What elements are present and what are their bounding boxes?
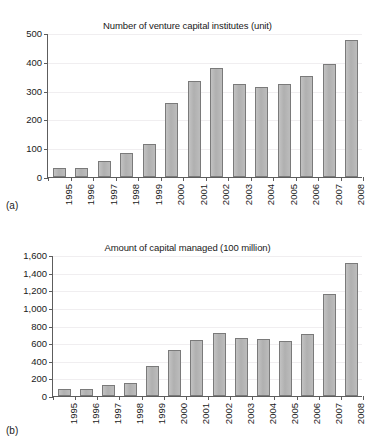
y-tick-label-b-3: 600 (31, 339, 47, 349)
x-tick-label-a-2000: 2000 (176, 184, 186, 205)
x-tick-label-a-2005: 2005 (289, 184, 299, 205)
y-tick-label-a-5: 500 (26, 29, 42, 39)
x-tick-label-a-1996: 1996 (86, 184, 96, 205)
x-tick-mark (208, 396, 209, 400)
bar-series-b (53, 256, 362, 396)
x-tick-label-a-1998: 1998 (131, 184, 141, 205)
x-tick-mark (228, 177, 229, 181)
x-tick-mark (164, 396, 165, 400)
x-tick-mark (252, 396, 253, 400)
x-tick-label-a-2004: 2004 (266, 184, 276, 205)
panel-label-b: (b) (6, 425, 18, 436)
x-axis-a: 1995199619971998199920002001200220032004… (48, 177, 362, 217)
x-tick-mark (273, 177, 274, 181)
bar-b-1995 (58, 389, 71, 396)
bar-series-a (48, 34, 362, 177)
bar-b-2001 (190, 340, 203, 396)
x-tick-label-b-1996: 1996 (91, 403, 101, 424)
x-tick-mark (161, 177, 162, 181)
x-tick-label-b-2007: 2007 (334, 403, 344, 424)
x-tick-label-b-2008: 2008 (356, 403, 366, 424)
bar-b-2008 (345, 263, 358, 396)
x-tick-label-b-2006: 2006 (312, 403, 322, 424)
bar-a-2001 (188, 81, 201, 177)
bar-a-2008 (345, 40, 358, 177)
chart-title-b: Amount of capital managed (100 million) (0, 242, 375, 253)
y-tick-label-b-1: 200 (31, 375, 47, 385)
x-tick-label-b-2005: 2005 (290, 403, 300, 424)
x-tick-mark (71, 177, 72, 181)
bar-a-2000 (165, 103, 178, 177)
x-tick-label-a-2008: 2008 (356, 184, 366, 205)
x-tick-label-b-2004: 2004 (268, 403, 278, 424)
bar-b-2002 (213, 333, 226, 396)
x-tick-label-b-2001: 2001 (201, 403, 211, 424)
x-tick-label-a-2007: 2007 (334, 184, 344, 205)
bar-a-2007 (323, 64, 336, 177)
x-tick-mark (297, 396, 298, 400)
bar-a-1996 (75, 168, 88, 177)
bar-b-2000 (168, 350, 181, 396)
x-tick-mark (296, 177, 297, 181)
plot-area-a: 0100200300400500 19951996199719981999200… (47, 34, 362, 178)
x-tick-mark (363, 177, 364, 181)
x-tick-label-b-1998: 1998 (135, 403, 145, 424)
bar-b-1998 (124, 383, 137, 396)
bar-a-1998 (120, 153, 133, 177)
y-tick-label-a-0: 0 (37, 173, 42, 183)
chart-title-a: Number of venture capital institutes (un… (0, 20, 375, 31)
bar-b-2003 (235, 338, 248, 396)
bar-a-1995 (53, 168, 66, 177)
bar-a-2003 (233, 84, 246, 177)
x-tick-label-a-1995: 1995 (64, 184, 74, 205)
x-tick-mark (319, 396, 320, 400)
bar-b-2006 (301, 334, 314, 396)
x-tick-label-b-1995: 1995 (69, 403, 79, 424)
x-tick-mark (116, 177, 117, 181)
x-tick-label-a-2003: 2003 (244, 184, 254, 205)
x-tick-mark (75, 396, 76, 400)
panel-b: Amount of capital managed (100 million) … (0, 221, 375, 443)
x-axis-b: 1995199619971998199920002001200220032004… (53, 396, 362, 436)
x-tick-mark (341, 396, 342, 400)
bar-b-2005 (279, 341, 292, 396)
x-tick-mark (48, 177, 49, 181)
bar-a-2002 (210, 68, 223, 177)
x-tick-mark (93, 177, 94, 181)
x-tick-label-a-2006: 2006 (311, 184, 321, 205)
x-tick-mark (142, 396, 143, 400)
x-tick-mark (97, 396, 98, 400)
bar-a-1997 (98, 161, 111, 177)
bar-b-1997 (102, 385, 115, 396)
x-tick-mark (363, 396, 364, 400)
x-tick-mark (53, 396, 54, 400)
bar-b-1999 (146, 366, 159, 396)
x-tick-label-b-2003: 2003 (246, 403, 256, 424)
x-tick-mark (230, 396, 231, 400)
figure-two-panel-bar-charts: Number of venture capital institutes (un… (0, 0, 375, 443)
x-tick-mark (186, 396, 187, 400)
x-tick-label-b-1997: 1997 (113, 403, 123, 424)
x-tick-mark (206, 177, 207, 181)
bar-a-2004 (255, 87, 268, 177)
bar-a-2005 (278, 84, 291, 177)
bar-b-1996 (80, 389, 93, 396)
x-tick-label-a-2002: 2002 (221, 184, 231, 205)
y-tick-label-b-8: 1,600 (23, 251, 47, 261)
y-tick-label-a-2: 200 (26, 116, 42, 126)
y-tick-label-b-6: 1,200 (23, 287, 47, 297)
y-tick-label-b-2: 400 (31, 357, 47, 367)
panel-label-a: (a) (6, 200, 18, 211)
y-tick-label-a-4: 400 (26, 58, 42, 68)
x-tick-mark (138, 177, 139, 181)
x-tick-mark (274, 396, 275, 400)
x-tick-mark (318, 177, 319, 181)
x-tick-mark (341, 177, 342, 181)
bar-a-2006 (300, 76, 313, 177)
y-tick-label-a-1: 100 (26, 144, 42, 154)
panel-a: Number of venture capital institutes (un… (0, 0, 375, 222)
x-tick-label-a-2001: 2001 (199, 184, 209, 205)
bar-b-2004 (257, 339, 270, 396)
x-tick-label-b-2000: 2000 (179, 403, 189, 424)
y-tick-label-b-0: 0 (42, 392, 47, 402)
